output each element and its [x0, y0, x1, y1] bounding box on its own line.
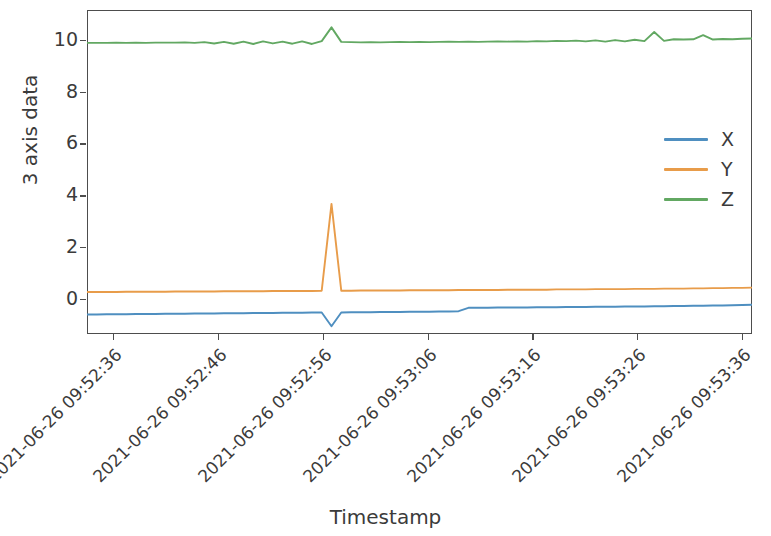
y-tick-mark [80, 299, 86, 300]
y-tick-label: 2 [66, 237, 78, 256]
legend-swatch-z [664, 198, 708, 201]
y-tick-label: 6 [66, 133, 78, 152]
x-tick-mark [637, 334, 638, 340]
y-tick-label: 4 [66, 185, 78, 204]
legend-label: Y [721, 160, 733, 179]
legend-label: X [721, 130, 734, 149]
legend-item-z: Z [664, 184, 744, 214]
y-tick-mark [80, 195, 86, 196]
y-tick-mark [80, 247, 86, 248]
x-tick-mark [532, 334, 533, 340]
x-tick-mark [428, 334, 429, 340]
y-tick-mark [80, 143, 86, 144]
legend-item-x: X [664, 124, 744, 154]
x-tick-mark [218, 334, 219, 340]
x-tick-mark [742, 334, 743, 340]
y-axis-tick-labels: 0246810 [36, 0, 78, 536]
y-tick-label: 0 [66, 289, 78, 308]
series-line-y [87, 204, 752, 292]
y-tick-mark [80, 40, 86, 41]
chart-figure: 3 axis data 0246810 2021-06-26 09:52:362… [0, 0, 771, 536]
plot-area [87, 10, 752, 334]
series-line-x [87, 305, 752, 327]
x-tick-mark [113, 334, 114, 340]
legend-label: Z [721, 190, 734, 209]
y-tick-label: 8 [66, 82, 78, 101]
legend-swatch-y [664, 168, 708, 171]
x-tick-mark [323, 334, 324, 340]
series-line-z [87, 27, 752, 44]
y-tick-mark [80, 92, 86, 93]
y-tick-label: 10 [54, 30, 78, 49]
x-axis-label: Timestamp [0, 505, 771, 529]
legend-swatch-x [664, 138, 708, 141]
chart-lines [87, 10, 752, 334]
chart-legend: XYZ [660, 118, 748, 220]
legend-item-y: Y [664, 154, 744, 184]
